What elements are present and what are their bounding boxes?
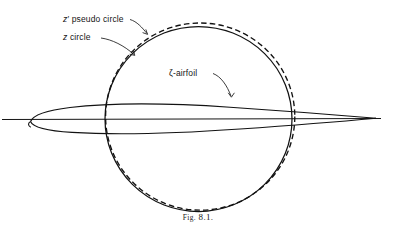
label-z-prime-text: pseudo circle [69, 14, 124, 24]
leader-line-z-circle [101, 38, 134, 55]
label-z-circle-text: circle [67, 32, 90, 42]
label-zeta-airfoil: ζ-airfoil [169, 69, 197, 78]
leader-arrow-airfoil [228, 93, 234, 97]
leader-line-airfoil [213, 74, 231, 97]
figure-caption-prefix: Fig. [183, 213, 196, 222]
leader-line-pseudo-circle [130, 20, 147, 34]
figure-caption-number: 8.1. [199, 212, 214, 222]
figure-container: z′ pseudo circle z circle ζ-airfoil Fig.… [0, 0, 396, 235]
label-z-circle: z circle [63, 33, 91, 42]
axis-line [2, 119, 381, 120]
figure-caption: Fig. 8.1. [0, 212, 396, 222]
label-z-prime-pseudo-circle: z′ pseudo circle [63, 15, 124, 24]
airfoil-lower-surface [31, 118, 377, 133]
figure-drawing [0, 0, 396, 235]
